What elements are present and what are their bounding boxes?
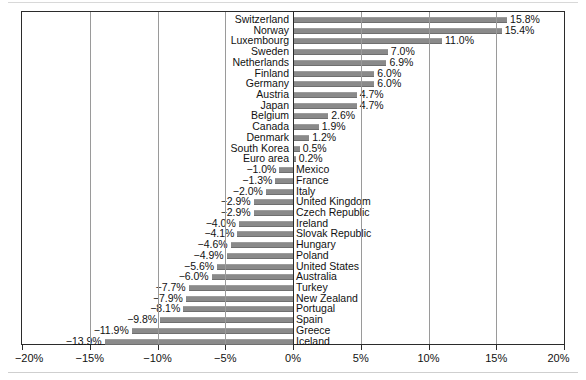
x-tick-label: −20% [15,351,43,365]
bar [293,146,300,152]
x-tick [22,345,23,350]
bar [293,92,357,98]
value-label: −9.8% [127,313,157,326]
x-tick [361,345,362,350]
x-tick-label: −5% [214,351,236,365]
gridline [361,12,362,344]
x-tick-label: −15% [76,351,104,365]
zero-axis-line [293,12,294,344]
x-tick [496,345,497,350]
gridline [429,12,430,344]
bar [183,306,293,312]
bar [293,71,374,77]
bar [293,81,374,87]
bar [293,113,328,119]
bar [266,189,293,195]
x-tick [225,345,226,350]
x-tick-label: 0% [285,351,301,365]
x-tick [564,345,565,350]
bar [160,317,293,323]
bar [279,167,293,173]
x-tick-label: 10% [417,351,439,365]
x-tick [293,345,294,350]
bar [237,231,293,237]
x-axis: −20%−15%−10%−5%0%5%10%15%20% [21,345,565,367]
bar [212,274,293,280]
page-top-rule [8,2,578,3]
x-tick [90,345,91,350]
bar [275,178,293,184]
bar [293,49,388,55]
bar [105,339,293,345]
chart-root: Switzerland15.8%Norway15.4%Luxembourg11.… [0,0,586,380]
page-bottom-rule [8,372,578,373]
gridline [225,12,226,344]
x-tick [429,345,430,350]
bar [132,328,293,334]
x-tick-label: 15% [485,351,507,365]
bar [227,253,293,259]
bar [293,103,357,109]
gridline [158,12,159,344]
x-tick [158,345,159,350]
value-label: 11.0% [445,34,474,47]
x-tick-label: 5% [353,351,369,365]
bar [189,285,293,291]
bar [254,199,293,205]
gridline [496,12,497,344]
bar [254,210,293,216]
bar [293,28,502,34]
bar [293,38,442,44]
bar [293,124,319,130]
bar [239,221,293,227]
bar [186,296,293,302]
bar [293,60,386,66]
bar [293,17,507,23]
value-label: 15.4% [505,24,535,37]
bar [231,242,293,248]
plot-area: Switzerland15.8%Norway15.4%Luxembourg11.… [21,11,565,345]
x-tick-label: −10% [143,351,171,365]
x-tick-label: 20% [547,351,569,365]
gridline [90,12,91,344]
value-label: 4.7% [360,99,384,112]
bar [217,264,293,270]
bar [293,135,309,141]
